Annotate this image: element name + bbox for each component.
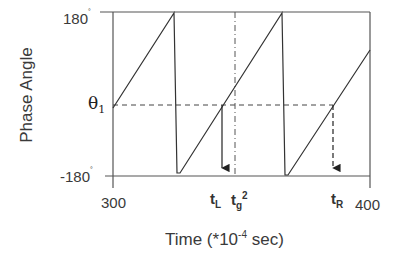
x-axis-label: Time (*10-4 sec)	[165, 229, 284, 250]
y-axis-label: Phase Angle	[17, 40, 37, 150]
tl-label: tL	[210, 190, 221, 210]
y-tick-top: 180°	[63, 10, 91, 27]
tg-label: tg2	[231, 190, 248, 211]
theta1-label: θ1	[88, 93, 105, 116]
phase-plot	[0, 0, 399, 266]
tr-label: tR	[331, 190, 343, 210]
x-tick-right: 400	[355, 196, 380, 213]
x-tick-left: 300	[101, 194, 126, 211]
y-tick-bottom: -180°	[60, 168, 93, 185]
phase-sawtooth	[113, 13, 370, 175]
